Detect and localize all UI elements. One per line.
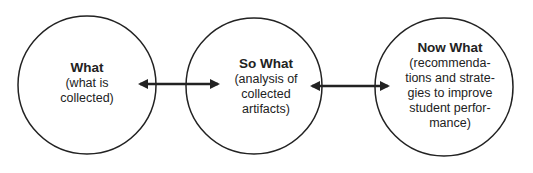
node-so-what: So What (analysis of collected artifacts… — [222, 56, 310, 117]
node-now-what: Now What (recommenda- tions and strate- … — [395, 40, 505, 131]
node-what-description: (what is collected) — [37, 76, 137, 106]
node-now-what-title: Now What — [395, 40, 505, 56]
node-what-title: What — [37, 60, 137, 76]
node-so-what-title: So What — [222, 56, 310, 72]
node-what: What (what is collected) — [37, 60, 137, 106]
node-so-what-description: (analysis of collected artifacts) — [222, 72, 310, 117]
node-now-what-description: (recommenda- tions and strate- gies to i… — [395, 56, 505, 131]
